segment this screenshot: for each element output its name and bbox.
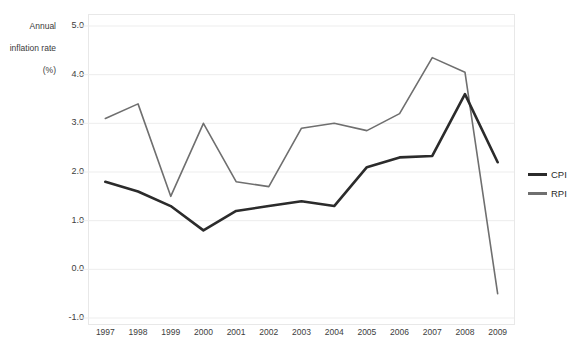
x-tick-label: 2008	[448, 327, 482, 337]
y-tick-label: 4.0	[58, 69, 84, 79]
legend-swatch-rpi	[528, 192, 547, 195]
x-tick-label: 2002	[252, 327, 286, 337]
legend-swatch-cpi	[528, 173, 547, 176]
y-tick-label: 2.0	[58, 166, 84, 176]
x-tick-label: 2001	[219, 327, 253, 337]
x-tick-label: 1999	[154, 327, 188, 337]
x-tick-label: 2007	[415, 327, 449, 337]
x-tick-label: 2000	[186, 327, 220, 337]
y-axis-title-line-3: (%)	[0, 65, 56, 76]
x-tick-label: 1997	[88, 327, 122, 337]
inflation-line-chart: Annual inflation rate (%) 5.04.03.02.01.…	[0, 0, 582, 350]
y-tick-label: 0.0	[58, 263, 84, 273]
y-axis-title-line-2: inflation rate	[0, 43, 56, 54]
y-axis-title-line-1: Annual	[0, 21, 56, 32]
y-tick-label: 3.0	[58, 117, 84, 127]
y-tick-label: 1.0	[58, 215, 84, 225]
legend-label-cpi: CPI	[551, 169, 567, 180]
x-tick-label: 2004	[317, 327, 351, 337]
legend-item-cpi[interactable]: CPI	[528, 165, 567, 179]
y-axis-title: Annual inflation rate (%)	[0, 10, 56, 87]
legend-item-rpi[interactable]: RPI	[528, 184, 567, 198]
x-tick-label: 2009	[481, 327, 515, 337]
x-tick-label: 2005	[350, 327, 384, 337]
y-tick-label: -1.0	[58, 312, 84, 322]
y-tick-label: 5.0	[58, 20, 84, 30]
x-tick-label: 2003	[285, 327, 319, 337]
x-tick-label: 2006	[383, 327, 417, 337]
plot-area	[88, 14, 515, 325]
legend-label-rpi: RPI	[551, 188, 567, 199]
x-tick-label: 1998	[121, 327, 155, 337]
